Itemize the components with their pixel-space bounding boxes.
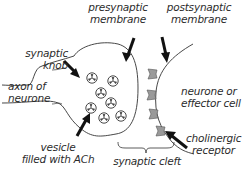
cholinergic-receptor — [147, 90, 156, 100]
label-line: effector cell — [181, 97, 241, 109]
vesicle — [96, 88, 106, 98]
vesicle — [106, 98, 116, 108]
arrows — [64, 37, 187, 148]
label-line: vesicle — [18, 141, 98, 153]
vesicle-arrow — [77, 113, 90, 136]
cholinergic-receptor — [156, 126, 165, 136]
label-line: filled with ACh — [18, 153, 98, 165]
synaptic-cleft-label: synaptic cleft — [104, 155, 190, 167]
vesicle — [99, 113, 109, 123]
label-line: synaptic — [10, 47, 68, 59]
label-line: cholinergic — [186, 132, 241, 144]
vesicle-label: vesicle filled with ACh — [18, 141, 98, 165]
postsynaptic-membrane-label: postsynaptic membrane — [158, 1, 240, 25]
cholinergic-receptor — [148, 69, 157, 79]
label-line: membrane — [158, 13, 240, 25]
neurone-or-effector-cell-label: neurone or effector cell — [181, 85, 241, 109]
presynaptic-membrane-label: presynaptic membrane — [78, 1, 158, 25]
label-line: postsynaptic — [158, 1, 240, 13]
vesicle — [87, 73, 97, 83]
vesicle — [108, 76, 118, 86]
label-line: neurone — [8, 92, 50, 104]
synaptic-knob-label: synaptic knob — [10, 47, 68, 71]
vesicle — [116, 111, 126, 121]
label-line: neurone or — [181, 85, 241, 97]
axon-of-neurone-label: axon of neurone — [8, 80, 50, 104]
label-line: receptor — [186, 144, 241, 156]
label-line: membrane — [78, 13, 158, 25]
vesicle — [86, 103, 96, 113]
vesicles — [86, 73, 126, 123]
label-line: knob — [10, 59, 68, 71]
cholinergic-receptor-label: cholinergic receptor — [186, 132, 241, 156]
postsynaptic-membrane-arrow — [161, 37, 170, 63]
synapse-diagram: presynaptic membrane postsynaptic membra… — [0, 0, 248, 173]
cholinergic-receptor — [149, 109, 158, 119]
label-line: axon of — [8, 80, 50, 92]
synaptic-cleft-brace — [118, 142, 174, 153]
label-line: presynaptic — [78, 1, 158, 13]
